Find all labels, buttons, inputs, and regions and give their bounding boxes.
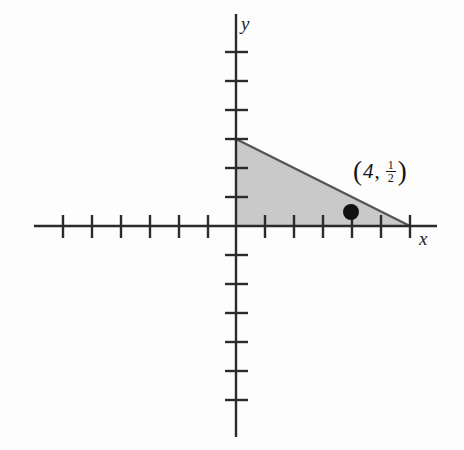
plot-canvas [0,0,464,450]
fraction-numerator: 1 [386,159,396,171]
point-y-fraction: 1 2 [384,159,398,184]
close-paren: ) [398,160,407,183]
open-paren: ( [353,160,362,183]
point-x-value: 4 [362,161,375,182]
point-coordinate-label: ( 4 , 1 2 ) [353,159,407,184]
y-axis-label: y [241,14,249,33]
coordinate-comma: , [375,161,384,182]
coordinate-plane-figure: x y ( 4 , 1 2 ) [0,0,464,450]
data-point-marker [343,204,359,220]
fraction-denominator: 2 [386,172,396,184]
x-axis-label: x [419,229,427,248]
